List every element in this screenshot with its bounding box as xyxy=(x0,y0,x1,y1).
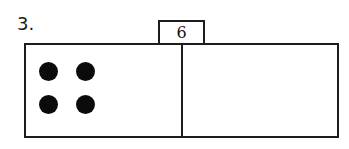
total-value-box: 6 xyxy=(158,20,205,45)
counter-dot-icon xyxy=(76,62,95,81)
counter-group xyxy=(39,62,103,117)
left-part-cell xyxy=(26,45,181,136)
total-value-text: 6 xyxy=(176,25,186,41)
counter-dot-icon xyxy=(76,95,95,114)
worksheet-problem: 3. 6 xyxy=(0,0,349,149)
problem-number-label: 3. xyxy=(17,13,34,35)
counter-dot-icon xyxy=(39,95,58,114)
counter-dot-icon xyxy=(39,62,58,81)
right-part-cell xyxy=(183,45,337,136)
